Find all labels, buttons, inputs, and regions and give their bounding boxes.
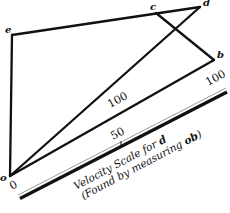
point-label-e: e [5,24,11,35]
velocity-diagram: e c d b o 100 0 50 100 Velocity Scale fo… [0,0,230,213]
segment-oe [10,35,12,176]
scale-label-0: 0 [7,178,19,193]
point-label-o: o [0,172,7,183]
line-od-label: 100 [105,89,130,110]
point-label-b: b [217,49,224,60]
point-label-d: d [203,0,210,8]
caption-line-2: (Found by measuring ob) [79,127,204,201]
scale-label-100: 100 [203,67,228,88]
point-label-c: c [150,1,156,12]
